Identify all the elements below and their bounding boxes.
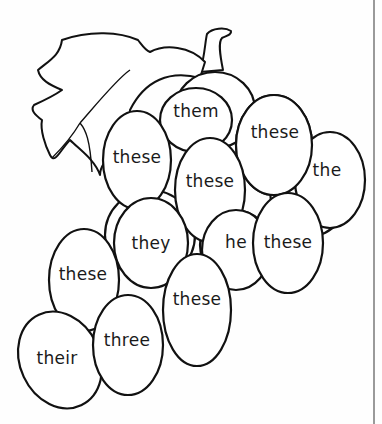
word-these-right[interactable]: these	[264, 234, 313, 251]
word-the[interactable]: the	[313, 162, 342, 179]
word-these-left[interactable]: these	[113, 149, 162, 166]
word-three[interactable]: three	[104, 332, 150, 349]
word-these-bottom[interactable]: these	[173, 291, 222, 308]
word-them[interactable]: them	[173, 103, 219, 120]
word-their[interactable]: their	[36, 350, 77, 367]
word-these-mid-left[interactable]: these	[59, 266, 108, 283]
word-these-top-right[interactable]: these	[251, 124, 300, 141]
word-they[interactable]: they	[131, 235, 170, 252]
word-these-center[interactable]: these	[186, 173, 235, 190]
word-he[interactable]: he	[225, 234, 247, 251]
page-edge	[373, 0, 375, 424]
worksheet-page: them these these the these they he these…	[0, 0, 382, 424]
